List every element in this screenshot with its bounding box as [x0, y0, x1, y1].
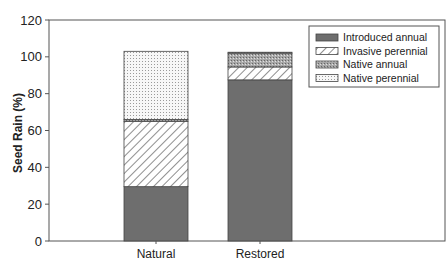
- legend-label: Native perennial: [343, 72, 419, 84]
- legend-label: Introduced annual: [343, 31, 427, 43]
- legend-swatch: [316, 61, 338, 68]
- x-category-label: Restored: [236, 247, 285, 261]
- legend-swatch: [316, 34, 338, 41]
- bar-segment: [228, 80, 292, 241]
- y-tick-label: 100: [20, 49, 42, 64]
- bar-segment: [124, 51, 188, 119]
- x-axis-category-labels: NaturalRestored: [137, 241, 285, 261]
- y-tick-label: 120: [20, 13, 42, 28]
- legend-label: Invasive perennial: [343, 45, 428, 57]
- y-tick-label: 0: [35, 234, 42, 249]
- legend-swatch: [316, 48, 338, 55]
- legend-swatch: [316, 75, 338, 82]
- bar-segment: [228, 67, 292, 80]
- bar-stacks: [124, 51, 292, 241]
- y-tick-label: 20: [28, 197, 42, 212]
- y-tick-label: 60: [28, 123, 42, 138]
- bar-segment: [124, 187, 188, 241]
- x-category-label: Natural: [137, 247, 176, 261]
- bar-stack-restored: [228, 52, 292, 241]
- bar-segment: [124, 121, 188, 186]
- legend-label: Native annual: [343, 58, 407, 70]
- legend: Introduced annualInvasive perennialNativ…: [309, 26, 439, 87]
- y-tick-label: 40: [28, 160, 42, 175]
- y-axis-title: Seed Rain (%): [11, 93, 25, 173]
- stacked-bar-chart: 020406080100120 Seed Rain (%) NaturalRes…: [0, 0, 448, 265]
- bar-segment: [228, 52, 292, 53]
- y-tick-label: 80: [28, 86, 42, 101]
- bar-segment: [228, 53, 292, 67]
- bar-stack-natural: [124, 51, 188, 241]
